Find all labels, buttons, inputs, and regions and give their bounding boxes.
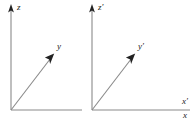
coordinate-frames-figure: z y z′ y′ x′ x (0, 0, 196, 121)
left-frame (8, 4, 82, 110)
y-prime-axis-label: y′ (138, 42, 144, 51)
figure-canvas (0, 0, 196, 121)
x-prime-axis-label: x′ (182, 97, 188, 106)
y-axis-arrowhead-icon (45, 54, 54, 64)
z-prime-axis-label: z′ (98, 3, 103, 12)
y-axis-label: y (57, 42, 61, 51)
z-axis-label: z (17, 3, 21, 12)
right-frame (89, 4, 190, 110)
y-prime-axis-line (92, 59, 132, 111)
y-prime-axis-arrowhead-icon (126, 54, 135, 64)
x-axis-label-right: x (183, 111, 187, 120)
y-axis-line (11, 59, 51, 111)
